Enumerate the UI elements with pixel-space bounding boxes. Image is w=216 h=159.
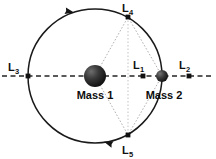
l1-point-marker bbox=[141, 74, 146, 79]
mass2-label: Mass 2 bbox=[146, 89, 183, 101]
l2-label: L bbox=[179, 59, 186, 71]
l5-point-marker bbox=[126, 133, 131, 138]
l3-point-marker bbox=[26, 74, 31, 79]
mass1-label: Mass 1 bbox=[77, 89, 114, 101]
orbit-arrow-bottom bbox=[103, 139, 114, 148]
l4-label: L bbox=[122, 2, 129, 14]
l5-label-subscript: 5 bbox=[129, 150, 133, 159]
l2-label-subscript: 2 bbox=[186, 65, 190, 74]
l4-label-subscript: 4 bbox=[129, 8, 134, 17]
edge-mass2-l5 bbox=[128, 76, 162, 135]
l5-label: L bbox=[122, 144, 129, 156]
mass1-body bbox=[84, 65, 106, 87]
l1-label-subscript: 1 bbox=[140, 65, 144, 74]
l3-label-subscript: 3 bbox=[15, 67, 19, 76]
l3-label: L bbox=[8, 61, 15, 73]
l1-label: L bbox=[133, 59, 140, 71]
l2-point-marker bbox=[187, 74, 192, 79]
diagram-canvas: L 1 L 2 L 3 L 4 L 5 Mass 1 Mass 2 bbox=[0, 0, 216, 158]
mass2-body bbox=[156, 70, 168, 82]
lagrange-points-diagram: L 1 L 2 L 3 L 4 L 5 Mass 1 Mass 2 bbox=[0, 0, 216, 158]
